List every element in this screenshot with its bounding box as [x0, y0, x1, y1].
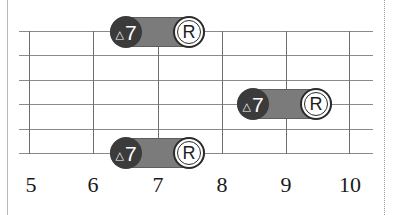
fret-line-5: [29, 31, 30, 154]
string-2: [19, 55, 373, 56]
root-note-marker: R: [173, 137, 205, 169]
root-label: R: [304, 92, 328, 116]
fret-number-7: 7: [143, 172, 173, 198]
fret-line-8: [222, 31, 223, 154]
root-label: R: [177, 20, 201, 44]
interval-label: 7: [125, 143, 137, 164]
string-3: [19, 80, 373, 81]
fret-line-6: [93, 31, 94, 154]
fret-number-9: 9: [271, 172, 301, 198]
major-seventh-marker: △ 7: [110, 137, 142, 169]
interval-label: 7: [252, 94, 264, 115]
left-border-line: [7, 0, 8, 215]
major-seventh-marker: △ 7: [237, 88, 269, 120]
right-dotted-divider: [384, 0, 385, 215]
major-seventh-marker: △ 7: [110, 16, 142, 48]
triangle-icon: △: [115, 28, 123, 41]
root-note-marker: R: [300, 88, 332, 120]
fret-number-10: 10: [335, 172, 365, 198]
triangle-icon: △: [115, 149, 123, 162]
fret-number-8: 8: [207, 172, 237, 198]
root-note-marker: R: [173, 16, 205, 48]
fret-number-5: 5: [16, 172, 46, 198]
fret-line-7: [158, 31, 159, 154]
string-5: [19, 129, 373, 130]
root-label: R: [177, 141, 201, 165]
triangle-icon: △: [242, 100, 250, 113]
fret-number-6: 6: [78, 172, 108, 198]
interval-label: 7: [125, 22, 137, 43]
fret-line-10: [349, 31, 350, 154]
